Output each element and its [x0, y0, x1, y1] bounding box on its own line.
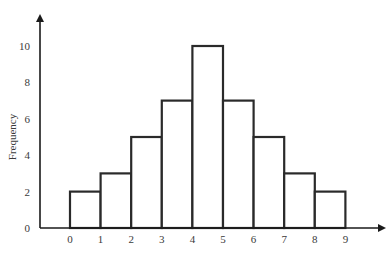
- x-tick-label: 4: [190, 233, 196, 245]
- histogram-bar: [223, 101, 254, 228]
- x-tick-label: 1: [98, 233, 104, 245]
- histogram-bar: [315, 192, 346, 228]
- x-tick-label: 9: [343, 233, 349, 245]
- y-tick-label: 4: [25, 149, 31, 161]
- y-tick-label: 0: [25, 222, 31, 234]
- x-tick-label: 3: [159, 233, 165, 245]
- x-tick-label: 6: [251, 233, 257, 245]
- histogram-bars: [70, 46, 345, 228]
- histogram-bar: [284, 173, 315, 228]
- y-tick-label: 10: [19, 40, 31, 52]
- x-tick-label: 5: [220, 233, 226, 245]
- x-tick-label: 0: [67, 233, 73, 245]
- x-axis-tick-labels: 0123456789: [67, 233, 348, 245]
- y-axis-title: Frequency: [6, 113, 18, 160]
- histogram-bar: [131, 137, 162, 228]
- histogram-bar: [192, 46, 223, 228]
- histogram-chart: 0246810 0123456789 Frequency: [0, 0, 392, 257]
- y-tick-label: 8: [25, 76, 31, 88]
- histogram-bar: [101, 173, 132, 228]
- histogram-bar: [162, 101, 193, 228]
- y-tick-label: 2: [25, 186, 31, 198]
- x-tick-label: 8: [312, 233, 318, 245]
- y-axis-tick-labels: 0246810: [19, 40, 31, 234]
- x-tick-label: 7: [281, 233, 287, 245]
- histogram-bar: [70, 192, 101, 228]
- y-tick-label: 6: [25, 113, 31, 125]
- x-tick-label: 2: [128, 233, 134, 245]
- histogram-bar: [254, 137, 285, 228]
